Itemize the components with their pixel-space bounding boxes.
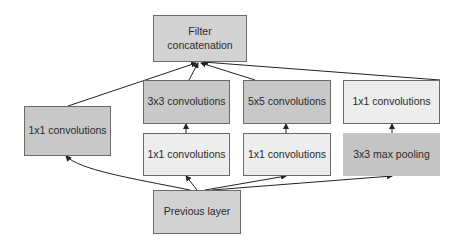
edge-prev-to-1x1-reduce-3x3 [186, 176, 197, 190]
previous-layer-label: Previous layer [164, 205, 231, 218]
conv-1x1-direct-node: 1x1 convolutions [24, 106, 111, 156]
conv-5x5-node: 5x5 convolutions [243, 80, 331, 124]
conv-1x1-reduce-5x5-label: 1x1 convolutions [248, 148, 326, 161]
conv-1x1-direct-label: 1x1 convolutions [28, 124, 106, 137]
filter-concatenation-label-line1: Filter [188, 25, 211, 38]
conv-3x3-label: 3x3 convolutions [147, 95, 225, 108]
conv-1x1-reduce-3x3-label: 1x1 convolutions [147, 148, 225, 161]
conv-3x3-node: 3x3 convolutions [143, 80, 230, 124]
edge-prev-to-1x1-reduce-5x5 [205, 176, 286, 190]
conv-1x1-after-pool-node: 1x1 convolutions [343, 80, 440, 124]
filter-concatenation-label-line2: concatenation [167, 39, 232, 52]
edge-1x1-pool-to-concat [203, 62, 440, 80]
conv-1x1-after-pool-label: 1x1 convolutions [352, 95, 430, 108]
edge-prev-to-maxpool [212, 176, 392, 190]
filter-concatenation-node: Filter concatenation [153, 15, 247, 62]
maxpool-3x3-node: 3x3 max pooling [343, 133, 440, 176]
previous-layer-node: Previous layer [153, 190, 241, 234]
maxpool-3x3-label: 3x3 max pooling [353, 148, 429, 161]
conv-1x1-reduce-3x3-node: 1x1 convolutions [143, 133, 230, 176]
conv-5x5-label: 5x5 convolutions [248, 95, 326, 108]
edge-3x3-to-concat [189, 63, 198, 80]
conv-1x1-reduce-5x5-node: 1x1 convolutions [243, 133, 331, 176]
